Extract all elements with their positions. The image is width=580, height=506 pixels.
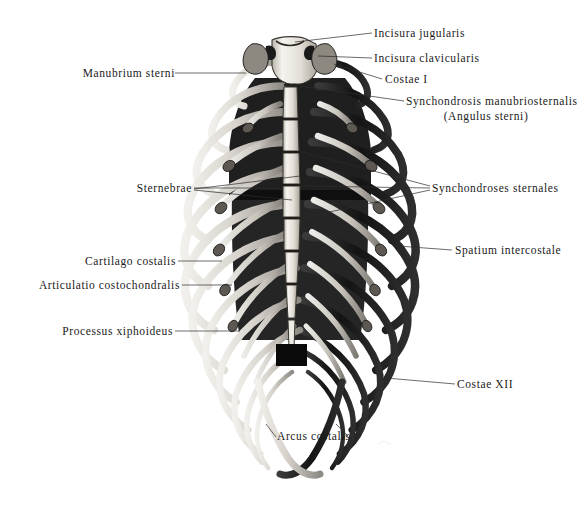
artist-signature bbox=[378, 441, 390, 445]
label-arcus-costalis: Arcus costalis bbox=[277, 429, 350, 443]
label-costae-xii: Costae XII bbox=[457, 377, 513, 391]
label-spatium-intercostale: Spatium intercostale bbox=[455, 243, 561, 257]
label-costae-i: Costae I bbox=[385, 72, 428, 86]
label-cartilago-costalis: Cartilago costalis bbox=[0, 254, 176, 268]
processus-xiphoideus bbox=[288, 320, 295, 348]
thorax-body bbox=[184, 37, 415, 476]
label-incisura-clavicularis: Incisura clavicularis bbox=[374, 51, 480, 65]
label-sternebrae: Sternebrae bbox=[0, 181, 192, 195]
label-articulatio-costochondralis: Articulatio costochondralis bbox=[0, 278, 180, 292]
label-synchondroses-sternales: Synchondroses sternales bbox=[432, 181, 559, 195]
label-angulus-sterni: (Angulus sterni) bbox=[406, 109, 566, 123]
label-processus-xiphoideus: Processus xiphoideus bbox=[0, 324, 173, 338]
leader-costae-xii bbox=[386, 378, 455, 384]
label-manubrium-sterni: Manubrium sterni bbox=[0, 66, 175, 80]
label-synchondrosis-manubriosternalis: Synchondrosis manubriosternalis bbox=[406, 94, 578, 108]
anatomical-plate: Incisura jugularis Incisura clavicularis… bbox=[0, 0, 580, 506]
leader-incisura-jugularis bbox=[295, 33, 372, 42]
xiphoid-shadow bbox=[276, 344, 307, 366]
label-incisura-jugularis: Incisura jugularis bbox=[374, 26, 465, 40]
